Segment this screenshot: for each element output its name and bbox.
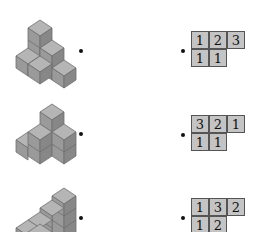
- grid-cell: 3: [227, 31, 245, 49]
- grid-cell: 3: [209, 198, 227, 216]
- cube-stack-3: [14, 186, 104, 232]
- grid-dot-2[interactable]: [181, 133, 185, 137]
- stack-dot-3[interactable]: [79, 216, 83, 220]
- stack-dot-1[interactable]: [79, 49, 83, 53]
- cube-stack-2: [14, 98, 104, 178]
- grid-dot-3[interactable]: [181, 216, 185, 220]
- grid-cell: 2: [209, 31, 227, 49]
- grid-cell: 1: [191, 198, 209, 216]
- grid-cell: 1: [227, 115, 245, 133]
- grid-cell: 2: [209, 115, 227, 133]
- cube-stack-1: [14, 14, 104, 104]
- grid-cell: 1: [209, 133, 227, 151]
- grid-cell: 1: [191, 216, 209, 232]
- grid-cell: 1: [209, 49, 227, 67]
- grid-cell: 3: [191, 115, 209, 133]
- grid-cell: 2: [209, 216, 227, 232]
- grid-cell: 1: [191, 133, 209, 151]
- grid-cell: 2: [227, 198, 245, 216]
- stack-dot-2[interactable]: [79, 132, 83, 136]
- grid-dot-1[interactable]: [181, 49, 185, 53]
- grid-cell: 1: [191, 49, 209, 67]
- grid-cell: 1: [191, 31, 209, 49]
